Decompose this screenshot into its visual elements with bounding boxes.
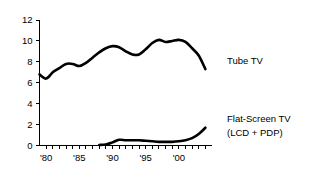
x-tick-label: '95 <box>139 152 151 163</box>
chart-container: 024681012 '80'85'90'95'00 Tube TV Flat-S… <box>0 0 312 176</box>
y-tick-label: 8 <box>27 56 32 67</box>
series-label-flat-screen-tv: Flat-Screen TV <box>227 113 291 124</box>
y-tick-label: 0 <box>27 140 32 151</box>
series-line-tube-tv <box>40 40 206 79</box>
y-tick-label: 10 <box>22 35 33 46</box>
x-tick-label: '85 <box>73 152 85 163</box>
y-tick-label: 12 <box>22 14 33 25</box>
x-tick-label: '00 <box>173 152 185 163</box>
x-axis-tick-labels: '80'85'90'95'00 <box>40 152 185 163</box>
line-chart: 024681012 '80'85'90'95'00 Tube TV Flat-S… <box>0 0 312 176</box>
series-label-tube-tv: Tube TV <box>227 55 264 66</box>
x-tick-label: '90 <box>106 152 118 163</box>
y-axis-tick-labels: 024681012 <box>22 14 33 151</box>
y-tick-label: 6 <box>27 77 32 88</box>
series-line-flat-screen-tv <box>99 128 205 145</box>
x-tick-label: '80 <box>40 152 52 163</box>
series-label-flat-screen-tv-sub: (LCD + PDP) <box>227 127 283 138</box>
y-tick-label: 4 <box>27 98 32 109</box>
y-tick-label: 2 <box>27 119 32 130</box>
